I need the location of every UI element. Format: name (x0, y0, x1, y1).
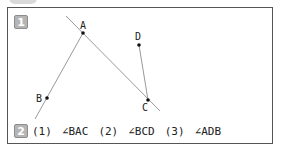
point-d-label: D (135, 31, 141, 42)
point-b-label: B (36, 93, 42, 104)
geometry-figure: A B C D (0, 0, 282, 151)
point-c-label: C (142, 102, 148, 113)
point-a-label: A (80, 20, 86, 31)
line-ab (35, 33, 83, 119)
point-b (45, 96, 49, 100)
point-a (81, 31, 85, 35)
point-d (137, 43, 141, 47)
